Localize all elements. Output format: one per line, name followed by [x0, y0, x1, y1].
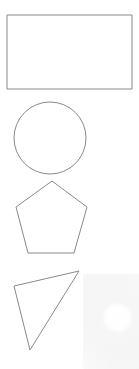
shapes-canvas — [0, 0, 139, 369]
pentagon-shape — [16, 181, 87, 253]
triangle-shape — [14, 271, 79, 350]
circle-shape — [14, 102, 86, 174]
rectangle-shape — [7, 15, 132, 89]
shapes-svg — [0, 0, 139, 369]
